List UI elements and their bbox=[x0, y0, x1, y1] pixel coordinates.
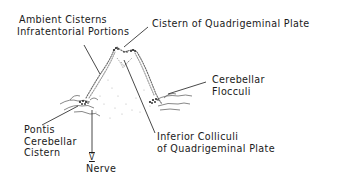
peak-stipple bbox=[113, 47, 136, 53]
label-ambient-line1: Ambient Cisterns bbox=[19, 14, 129, 26]
label-pontis-line3: Cistern bbox=[24, 147, 77, 159]
label-pontis-cerebellar-cistern: Pontis Cerebellar Cistern bbox=[24, 124, 77, 159]
flocculi-cluster bbox=[156, 94, 192, 111]
leader-pontis bbox=[42, 106, 78, 125]
anatomy-diagram: Ambient Cisterns Infratentorial Portions… bbox=[0, 0, 343, 192]
leader-flocculi bbox=[168, 82, 206, 94]
label-cistern-quad-line1: Cistern of Quadrigeminal Plate bbox=[152, 18, 310, 30]
leader-colliculi bbox=[124, 60, 155, 133]
label-pontis-line1: Pontis bbox=[24, 124, 77, 136]
label-ambient-line2: Infratentorial Portions bbox=[17, 26, 129, 38]
interior-stipple bbox=[95, 79, 150, 118]
label-colliculi-line1: Inferior Colliculi bbox=[157, 131, 275, 143]
label-cistern-quadrigeminal: Cistern of Quadrigeminal Plate bbox=[152, 18, 310, 30]
label-nerve: V Nerve bbox=[86, 153, 116, 175]
label-nerve-numeral: V bbox=[89, 153, 116, 163]
tent-outline bbox=[86, 47, 162, 104]
label-flocculi-line1: Cerebellar bbox=[212, 74, 265, 86]
label-cerebellar-flocculi: Cerebellar Flocculi bbox=[212, 74, 265, 97]
label-pontis-line2: Cerebellar bbox=[24, 136, 77, 148]
label-ambient-cisterns: Ambient Cisterns Infratentorial Portions bbox=[19, 14, 129, 37]
pontis-cluster bbox=[60, 96, 100, 117]
label-inferior-colliculi: Inferior Colliculi of Quadrigeminal Plat… bbox=[157, 131, 275, 154]
leader-ambient bbox=[84, 45, 100, 74]
colliculi-outline bbox=[117, 58, 132, 68]
label-colliculi-line2: of Quadrigeminal Plate bbox=[157, 143, 275, 155]
label-flocculi-line2: Flocculi bbox=[212, 86, 265, 98]
label-nerve-line1: Nerve bbox=[86, 163, 116, 175]
